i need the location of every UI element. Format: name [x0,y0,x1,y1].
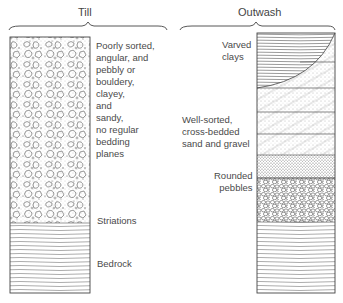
till-title: Till [78,6,92,18]
outwash-brace [180,22,335,30]
geology-diagram [0,0,343,303]
bedrock-label: Bedrock [97,258,132,270]
till-brace [9,22,167,30]
sand-gravel-label: Well-sorted, cross-bedded sand and grave… [182,114,250,150]
outwash-column [257,33,335,293]
outwash-title: Outwash [238,6,281,18]
till-description: Poorly sorted, angular, and pebbly or bo… [96,40,155,160]
till-column [10,37,90,293]
striations-label: Striations [97,215,137,227]
rounded-pebbles-label: Rounded pebbles [214,170,253,194]
varved-clays-label: Varved clays [222,39,251,63]
